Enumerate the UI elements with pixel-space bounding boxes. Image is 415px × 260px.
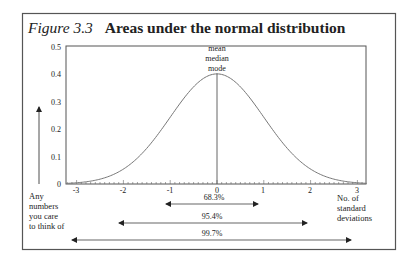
- x-note-line: standard: [337, 203, 367, 213]
- x-tick-label: -1: [167, 186, 174, 195]
- x-tick-label: 1: [261, 186, 265, 195]
- y-tick-label: 0.3: [51, 98, 61, 107]
- y-tick-label: 0.5: [51, 43, 61, 52]
- x-tick-label: -2: [120, 186, 127, 195]
- figure-heading: Areas under the normal distribution: [105, 19, 346, 36]
- y-note-line: to think of: [29, 221, 65, 231]
- y-note-line: you care: [29, 211, 58, 221]
- figure-label: Figure 3.3: [27, 19, 93, 36]
- peak-label-median: median: [205, 54, 229, 63]
- x-tick-label: 2: [308, 186, 312, 195]
- x-tick-label: -3: [73, 186, 80, 195]
- y-note-line: numbers: [29, 201, 58, 211]
- figure-canvas: Figure 3.3 Areas under the normal distri…: [0, 0, 415, 260]
- range-label: 95.4%: [202, 212, 223, 221]
- range-label: 99.7%: [202, 229, 223, 238]
- x-note-line: deviations: [337, 213, 372, 223]
- y-note-line: Any: [29, 191, 44, 201]
- x-note-line: No. of: [337, 193, 359, 203]
- y-tick-label: 0: [57, 180, 61, 189]
- peak-label-mean: mean: [208, 44, 225, 53]
- peak-label-mode: mode: [208, 64, 226, 73]
- range-label: 68.3%: [204, 193, 225, 202]
- y-tick-label: 0.2: [51, 125, 61, 134]
- figure-title: Figure 3.3 Areas under the normal distri…: [27, 19, 346, 36]
- y-tick-label: 0.1: [51, 153, 61, 162]
- y-tick-label: 0.4: [51, 70, 61, 79]
- peak-annotation: mean median mode: [205, 44, 229, 73]
